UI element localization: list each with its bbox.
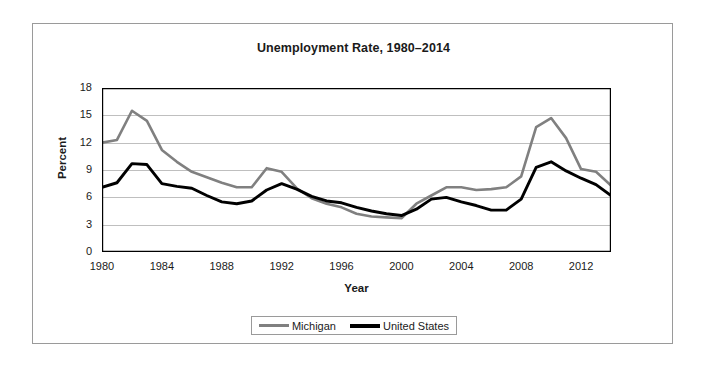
x-tick-label-1980: 1980 — [81, 260, 123, 272]
y-tick-label-6: 6 — [68, 191, 92, 202]
chart-legend: Michigan United States — [251, 316, 457, 335]
y-tick-label-12: 12 — [68, 137, 92, 148]
x-tick-label-2000: 2000 — [380, 260, 422, 272]
legend-item-united-states[interactable]: United States — [350, 320, 449, 332]
series-line-michigan — [102, 111, 611, 219]
y-tick-label-9: 9 — [68, 164, 92, 175]
x-tick-label-1992: 1992 — [261, 260, 303, 272]
legend-label-michigan: Michigan — [292, 320, 336, 332]
series-line-united-states — [102, 162, 611, 216]
legend-item-michigan[interactable]: Michigan — [259, 320, 336, 332]
x-tick-label-1996: 1996 — [321, 260, 363, 272]
y-tick-label-0: 0 — [68, 246, 92, 257]
y-tick-label-18: 18 — [68, 82, 92, 93]
plot-area — [102, 88, 611, 252]
y-axis-title: Percent — [56, 123, 68, 193]
chart-figure-frame: Unemployment Rate, 1980–2014 Percent 036… — [32, 23, 673, 344]
legend-label-united-states: United States — [383, 320, 449, 332]
x-tick-label-2008: 2008 — [500, 260, 542, 272]
x-axis-title: Year — [102, 282, 611, 294]
line-chart-svg — [102, 88, 611, 252]
x-tick-label-1988: 1988 — [201, 260, 243, 272]
x-tick-label-2012: 2012 — [560, 260, 602, 272]
x-tick-label-2004: 2004 — [440, 260, 482, 272]
y-tick-label-3: 3 — [68, 219, 92, 230]
y-tick-label-15: 15 — [68, 109, 92, 120]
data-series-group — [102, 111, 611, 219]
chart-title: Unemployment Rate, 1980–2014 — [33, 41, 674, 55]
legend-swatch-michigan-icon — [259, 324, 289, 327]
legend-swatch-united-states-icon — [350, 324, 380, 328]
x-tick-label-1984: 1984 — [141, 260, 183, 272]
